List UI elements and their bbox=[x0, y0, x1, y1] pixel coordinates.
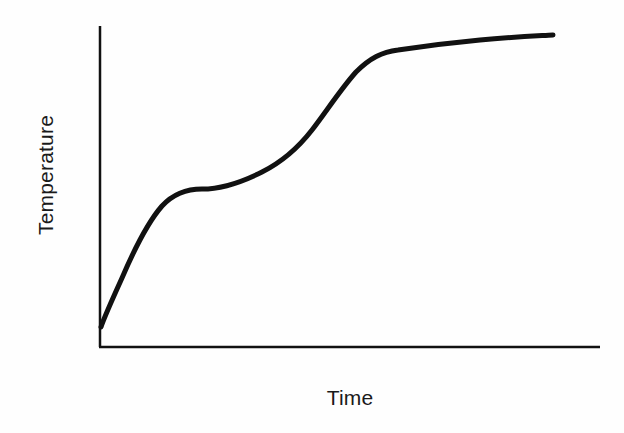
y-axis-label: Temperature bbox=[34, 75, 58, 275]
data-series-line bbox=[101, 35, 553, 327]
chart-plot-area bbox=[0, 0, 624, 433]
chart-figure: Temperature Time bbox=[0, 0, 624, 433]
x-axis-label: Time bbox=[250, 386, 450, 410]
